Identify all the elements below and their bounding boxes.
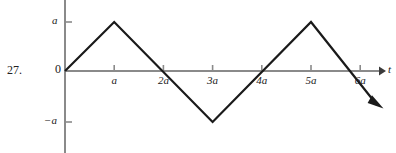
x-axis-tick-label-6a: 6a: [355, 74, 366, 86]
figure-container: 27. 0 a −a a 2a 3a 4a 5a 6a t: [0, 0, 396, 153]
x-axis-tick-label-4a: 4a: [256, 74, 267, 86]
problem-number: 27.: [7, 64, 22, 76]
triangular-wave-plot: [0, 0, 396, 153]
x-axis-name-label: t: [388, 64, 391, 75]
y-axis-label-negative-a: −a: [44, 115, 57, 126]
x-axis-tick-label-3a: 3a: [207, 74, 218, 86]
x-axis-tick-label-5a: 5a: [306, 74, 317, 86]
y-axis-label-positive-a: a: [52, 15, 58, 26]
x-axis-tick-label-2a: 2a: [158, 74, 169, 86]
origin-label: 0: [55, 63, 61, 75]
x-axis-arrowhead-icon: [379, 67, 386, 76]
x-axis-tick-label-a: a: [111, 74, 117, 86]
